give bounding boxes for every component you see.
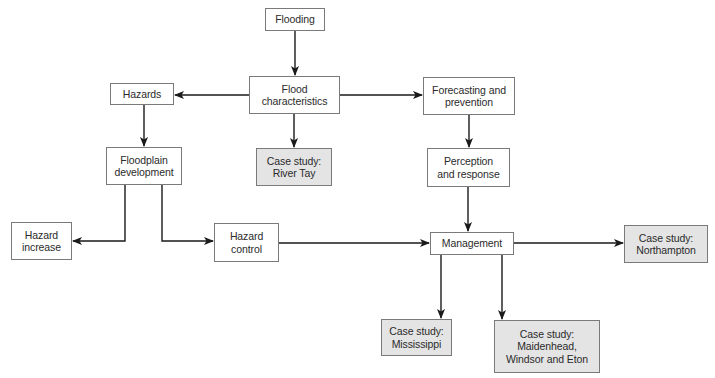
node-hazards: Hazards xyxy=(110,83,174,105)
node-label: Case study: River Tay xyxy=(267,155,321,180)
arrow-floodplain-to-hazard-control xyxy=(162,185,213,241)
node-label: Case study: Maidenhead, Windsor and Eton xyxy=(506,328,588,366)
flood-concept-diagram: Flooding Flood characteristics Hazards F… xyxy=(0,0,715,378)
node-label: Flood characteristics xyxy=(262,83,328,108)
node-label: Flooding xyxy=(275,13,314,26)
arrow-floodplain-to-hazard-increase xyxy=(73,185,125,241)
case-study-northampton: Case study: Northampton xyxy=(624,225,708,263)
case-study-mississippi: Case study: Mississippi xyxy=(381,319,452,356)
node-label: Case study: Northampton xyxy=(636,232,696,257)
node-flooding: Flooding xyxy=(265,8,325,31)
case-study-maidenhead-windsor-eton: Case study: Maidenhead, Windsor and Eton xyxy=(494,320,600,373)
node-hazard-control: Hazard control xyxy=(214,223,279,262)
node-label: Management xyxy=(442,237,502,250)
node-label: Hazard increase xyxy=(22,229,61,254)
node-label: Case study: Mississippi xyxy=(389,325,443,350)
node-forecasting-and-prevention: Forecasting and prevention xyxy=(423,77,515,115)
node-label: Forecasting and prevention xyxy=(432,84,506,109)
case-study-river-tay: Case study: River Tay xyxy=(256,148,332,186)
node-label: Perception and response xyxy=(437,155,499,180)
node-floodplain-development: Floodplain development xyxy=(106,147,182,185)
node-label: Floodplain development xyxy=(114,154,173,179)
node-perception-and-response: Perception and response xyxy=(427,148,510,187)
node-management: Management xyxy=(430,232,514,255)
node-hazard-increase: Hazard increase xyxy=(11,222,72,260)
node-label: Hazards xyxy=(123,88,161,101)
node-flood-characteristics: Flood characteristics xyxy=(249,76,340,114)
node-label: Hazard control xyxy=(230,230,263,255)
connector-lines xyxy=(0,0,715,378)
